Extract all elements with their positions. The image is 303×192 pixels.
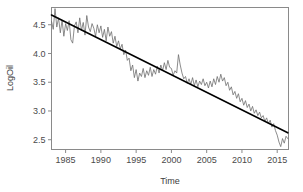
x-tick-label: 2005 [197, 155, 217, 165]
chart-container: 2.53.03.54.04.5 198519901995200020052010… [0, 0, 303, 192]
x-tick-label: 2015 [267, 155, 287, 165]
y-tick-label: 2.5 [33, 135, 46, 145]
logoil-time-series-chart: 2.53.03.54.04.5 198519901995200020052010… [0, 0, 303, 192]
y-tick-label: 4.0 [33, 49, 46, 59]
x-axis-title: Time [160, 176, 180, 186]
y-tick-label: 3.0 [33, 106, 46, 116]
y-tick-label: 4.5 [33, 20, 46, 30]
x-tick-label: 1985 [56, 155, 76, 165]
x-tick-label: 2000 [161, 155, 181, 165]
x-tick-label: 1995 [126, 155, 146, 165]
y-axis-title: LogOil [5, 65, 15, 91]
x-tick-label: 2010 [232, 155, 252, 165]
y-tick-label: 3.5 [33, 77, 46, 87]
x-tick-label: 1990 [91, 155, 111, 165]
